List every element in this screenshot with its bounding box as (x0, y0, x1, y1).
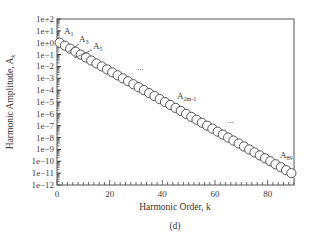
y-tick-label: 1e−9 (36, 144, 55, 154)
point-annotation: A1 (64, 26, 74, 37)
y-tick-label: 1e−6 (36, 109, 55, 119)
data-points (55, 38, 296, 178)
y-tick-label: 1e−11 (32, 168, 54, 178)
annotations: A1A3A5A2m-1A89...... (64, 26, 293, 161)
point-annotation: A89 (280, 150, 293, 161)
ellipsis-annotation: ... (227, 115, 234, 125)
ellipsis-annotation: ... (137, 62, 144, 72)
y-tick-label: 1e−7 (36, 121, 55, 131)
y-tick-label: 1e−3 (36, 73, 55, 83)
figure-caption: (d) (169, 221, 180, 232)
y-tick-label: 1e+1 (36, 26, 54, 36)
point-annotation: A2m-1 (177, 91, 196, 102)
harmonic-amplitude-chart: 1e+21e+11e+01e−11e−21e−31e−41e−51e−61e−7… (0, 0, 309, 245)
y-tick-label: 1e−2 (36, 61, 54, 71)
y-tick-label: 1e−1 (36, 50, 54, 60)
y-axis-title: Harmonic Amplitude, Ak (5, 55, 16, 150)
point-annotation: A3 (79, 34, 89, 45)
x-tick-label: 60 (211, 189, 221, 199)
y-tick-label: 1e−4 (36, 85, 55, 95)
point-annotation: A5 (93, 41, 103, 52)
x-tick-label: 80 (263, 189, 273, 199)
y-tick-label: 1e+0 (36, 38, 55, 48)
x-tick-label: 20 (105, 189, 115, 199)
y-tick-label: 1e−8 (36, 133, 55, 143)
x-axis-title: Harmonic Order, k (139, 202, 211, 212)
y-tick-label: 1e−5 (36, 97, 55, 107)
y-tick-label: 1e+2 (36, 14, 54, 24)
x-tick-label: 40 (158, 189, 168, 199)
data-point (287, 169, 296, 178)
x-axis-ticks: 020406080 (55, 180, 294, 199)
x-tick-label: 0 (55, 189, 60, 199)
y-tick-label: 1e−10 (31, 156, 54, 166)
y-tick-label: 1e−12 (31, 180, 54, 190)
